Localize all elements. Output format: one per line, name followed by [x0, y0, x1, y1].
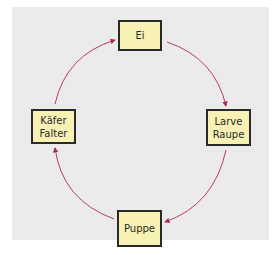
node-puppe: Puppe	[117, 210, 162, 247]
node-ei-label: Ei	[135, 29, 144, 42]
node-larve-label: Larve	[215, 115, 243, 128]
node-kaefer-label: Käfer	[40, 114, 66, 127]
arrow-larve-to-puppe	[165, 150, 226, 222]
node-puppe-label: Puppe	[124, 222, 155, 235]
node-kaefer-falter: Käfer Falter	[31, 109, 76, 144]
arrow-ei-to-larve	[167, 42, 226, 106]
node-ei: Ei	[118, 20, 162, 51]
arrow-kaefer-to-ei	[55, 40, 115, 104]
node-larve-raupe: Larve Raupe	[206, 109, 251, 146]
node-falter-label: Falter	[40, 127, 68, 140]
node-raupe-label: Raupe	[213, 128, 245, 141]
arrow-puppe-to-kaefer	[55, 148, 114, 219]
